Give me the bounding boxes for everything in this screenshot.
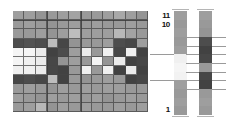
heatmap-cell (92, 66, 103, 75)
heatmap-cell (47, 94, 58, 103)
heatmap-cell (103, 94, 114, 103)
heatmap-cell (114, 48, 125, 57)
heatmap-cell (92, 57, 103, 66)
heatmap-cell (58, 66, 69, 75)
heatmap-cell (69, 29, 80, 38)
heatmap-cell (24, 39, 35, 48)
heatmap-cell (13, 39, 24, 48)
heatmap-cell (36, 94, 47, 103)
heatmap-cell (69, 75, 80, 84)
heatmap-cell (92, 20, 103, 29)
heatmap-cell (24, 57, 35, 66)
heatmap-cell (81, 94, 92, 103)
heatmap-cell (114, 39, 125, 48)
heatmap-cell (58, 103, 69, 112)
heatmap-cell (114, 20, 125, 29)
heatmap-cell (92, 29, 103, 38)
colorbar-b-cap-bottom (197, 116, 214, 117)
heatmap-cell (81, 48, 92, 57)
heatmap-cell (36, 57, 47, 66)
heatmap-cell (126, 57, 137, 66)
colorbar-b-cell (199, 11, 212, 20)
heatmap-cell (47, 29, 58, 38)
colorbar-a-cap-top (172, 9, 189, 10)
heatmap-cell (69, 20, 80, 29)
heatmap-cell (92, 39, 103, 48)
heatmap-cell (58, 75, 69, 84)
heatmap-cell (137, 94, 148, 103)
heatmap-cell (13, 48, 24, 57)
heatmap-cell (114, 84, 125, 93)
heatmap-cell (24, 20, 35, 29)
heatmap-cell (103, 103, 114, 112)
heatmap-cell (114, 57, 125, 66)
colorbar-b[interactable] (199, 11, 212, 115)
heatmap-cell (114, 103, 125, 112)
heatmap-cell (47, 103, 58, 112)
heatmap-cell (13, 11, 24, 20)
heatmap-cell (24, 94, 35, 103)
heatmap-cell (137, 39, 148, 48)
heatmap-cell (137, 57, 148, 66)
colorbar-b-cell (199, 98, 212, 107)
heatmap-cell (69, 48, 80, 57)
heatmap-cell (81, 57, 92, 66)
colorbar-b-cell (199, 28, 212, 37)
heatmap-cell (47, 75, 58, 84)
heatmap-cell (24, 48, 35, 57)
heatmap-cell (58, 94, 69, 103)
heatmap-cell (47, 66, 58, 75)
heatmap-cell (47, 57, 58, 66)
heatmap-cell (114, 11, 125, 20)
heatmap-cell (81, 103, 92, 112)
heatmap-cell (47, 11, 58, 20)
heatmap-cell (58, 57, 69, 66)
heatmap-cell (126, 103, 137, 112)
colorbar-b-cell (199, 46, 212, 55)
heatmap-cell (92, 103, 103, 112)
heatmap-cell (103, 48, 114, 57)
colorbar-b-cell (199, 20, 212, 29)
heatmap-cell (81, 29, 92, 38)
colorbar-b-cell (199, 89, 212, 98)
heatmap-cell (69, 103, 80, 112)
heatmap-cell (36, 48, 47, 57)
heatmap-cell (36, 20, 47, 29)
heatmap-cell (24, 84, 35, 93)
heatmap-cell (126, 29, 137, 38)
heatmap-cell (81, 20, 92, 29)
figure-canvas: 11 10 1 (0, 0, 231, 127)
colorbar-a-cap-bottom (172, 116, 189, 117)
heatmap-cell (47, 84, 58, 93)
heatmap-grid (13, 11, 148, 112)
heatmap-cell (13, 57, 24, 66)
heatmap-cell (92, 84, 103, 93)
heatmap-matrix[interactable] (13, 11, 148, 112)
heatmap-cell (81, 39, 92, 48)
heatmap-cell (58, 39, 69, 48)
heatmap-cell (13, 20, 24, 29)
heatmap-cell (81, 75, 92, 84)
heatmap-cell (47, 48, 58, 57)
heatmap-cell (47, 20, 58, 29)
heatmap-cell (103, 39, 114, 48)
heatmap-cell (58, 20, 69, 29)
heatmap-cell (69, 39, 80, 48)
heatmap-cell (114, 66, 125, 75)
heatmap-cell (103, 66, 114, 75)
heatmap-cell (126, 11, 137, 20)
heatmap-cell (92, 48, 103, 57)
heatmap-cell (137, 29, 148, 38)
heatmap-cell (126, 75, 137, 84)
heatmap-cell (103, 29, 114, 38)
heatmap-cell (103, 57, 114, 66)
heatmap-cell (69, 94, 80, 103)
heatmap-cell (126, 94, 137, 103)
heatmap-cell (58, 48, 69, 57)
colorbar-b-cell (199, 63, 212, 72)
heatmap-cell (36, 103, 47, 112)
heatmap-cell (81, 84, 92, 93)
heatmap-cell (103, 84, 114, 93)
heatmap-cell (81, 11, 92, 20)
heatmap-cell (126, 39, 137, 48)
